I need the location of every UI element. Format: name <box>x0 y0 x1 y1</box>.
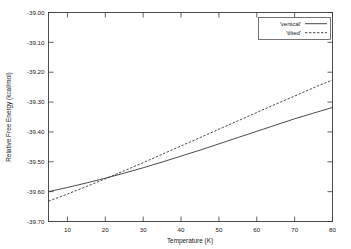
x-tick-label: 60 <box>253 226 260 233</box>
legend-label-tilted: 'tilted' <box>286 30 301 36</box>
y-axis-title: Relative Free Energy (kcal/mol) <box>5 72 13 162</box>
plot-area: -39.00-39.10-39.20-39.30-39.40-39.50-39.… <box>0 0 351 249</box>
x-tick-label: 20 <box>102 226 109 233</box>
y-tick-label: -39.70 <box>27 218 45 225</box>
x-tick-label: 40 <box>178 226 185 233</box>
x-axis-title: Temperature (K) <box>167 237 213 245</box>
x-tick-label: 10 <box>64 226 71 233</box>
y-tick-label: -39.40 <box>27 128 45 135</box>
x-tick-label: 70 <box>291 226 298 233</box>
free-energy-chart: -39.00-39.10-39.20-39.30-39.40-39.50-39.… <box>0 0 351 249</box>
series-line-tilted <box>49 80 333 201</box>
legend-label-vertical: 'vertical' <box>280 21 301 27</box>
y-tick-label: -39.10 <box>27 39 45 46</box>
y-tick-label: -39.30 <box>27 98 45 105</box>
y-tick-label: -39.00 <box>27 9 45 16</box>
data-series-group <box>49 80 333 201</box>
legend: 'vertical' 'tilted' <box>259 18 331 40</box>
y-tick-label: -39.60 <box>27 188 45 195</box>
x-axis-ticks: 1020304050607080 <box>64 13 337 233</box>
plot-frame <box>49 13 333 222</box>
y-tick-label: -39.50 <box>27 158 45 165</box>
y-tick-label: -39.20 <box>27 68 45 75</box>
x-tick-label: 80 <box>329 226 336 233</box>
x-tick-label: 50 <box>215 226 222 233</box>
series-line-vertical <box>49 107 333 191</box>
x-tick-label: 30 <box>140 226 147 233</box>
